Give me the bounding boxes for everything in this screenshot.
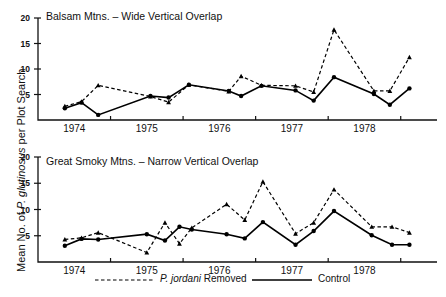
data-point-balsam-control-12 xyxy=(372,92,376,96)
figure-container: Mean No. of P. glutinosus per Plot Searc… xyxy=(0,0,446,297)
x-tick-label-great-smoky-1978: 1978 xyxy=(344,265,384,276)
legend-label-removed-species: P. jordani xyxy=(160,273,201,284)
y-tick-label-balsam-15: 15 xyxy=(16,39,30,49)
data-point-balsam-control-6 xyxy=(227,89,231,93)
data-point-balsam-control-0 xyxy=(63,106,67,110)
x-tick-label-great-smoky-1974: 1974 xyxy=(54,265,94,276)
data-point-great-smoky-control-15 xyxy=(407,242,411,246)
data-point-great-smoky-removed-4 xyxy=(163,220,168,224)
y-axis-label-suffix: per Plot Search xyxy=(15,69,27,148)
data-point-great-smoky-control-6 xyxy=(190,227,194,231)
data-point-great-smoky-control-10 xyxy=(293,242,297,246)
x-tick-label-balsam-1977: 1977 xyxy=(272,123,312,134)
y-tick-label-great-smoky-10: 10 xyxy=(16,205,30,215)
x-tick-label-balsam-1975: 1975 xyxy=(127,123,167,134)
data-point-balsam-control-13 xyxy=(388,103,392,107)
y-tick-label-balsam-5: 5 xyxy=(16,90,30,100)
legend-label-removed-suffix: Removed xyxy=(201,273,247,284)
data-point-balsam-control-14 xyxy=(407,86,411,90)
series-line-great-smoky-removed xyxy=(65,182,410,253)
legend-label-removed: P. jordani Removed xyxy=(160,273,247,284)
y-tick-label-great-smoky-20: 20 xyxy=(16,152,30,162)
x-tick-label-balsam-1976: 1976 xyxy=(199,123,239,134)
data-point-great-smoky-control-7 xyxy=(224,232,228,236)
data-point-balsam-removed-10 xyxy=(311,90,316,94)
data-point-balsam-control-9 xyxy=(293,88,297,92)
axis-lines-great-smoky xyxy=(38,157,437,262)
data-point-great-smoky-removed-2 xyxy=(96,230,101,234)
x-tick-label-balsam-1974: 1974 xyxy=(54,123,94,134)
data-point-great-smoky-control-9 xyxy=(261,220,265,224)
data-point-balsam-control-2 xyxy=(96,113,100,117)
data-point-balsam-control-1 xyxy=(79,100,83,104)
data-point-balsam-control-7 xyxy=(239,94,243,98)
data-point-great-smoky-control-11 xyxy=(311,229,315,233)
data-point-balsam-removed-14 xyxy=(407,55,412,59)
axis-lines-balsam xyxy=(38,18,437,120)
data-point-great-smoky-removed-10 xyxy=(293,231,298,235)
series-line-balsam-control xyxy=(65,77,410,115)
data-point-balsam-control-8 xyxy=(259,84,263,88)
data-point-balsam-control-3 xyxy=(148,94,152,98)
panel-title-balsam: Balsam Mtns. – Wide Vertical Overlap xyxy=(46,10,222,22)
x-tick-label-balsam-1978: 1978 xyxy=(344,123,384,134)
panel-title-great-smoky: Great Smoky Mtns. – Narrow Vertical Over… xyxy=(46,155,258,167)
data-point-great-smoky-control-8 xyxy=(243,236,247,240)
data-point-great-smoky-control-13 xyxy=(370,233,374,237)
data-point-great-smoky-removed-12 xyxy=(332,187,337,191)
data-point-great-smoky-control-1 xyxy=(79,237,83,241)
data-point-balsam-removed-7 xyxy=(239,74,244,78)
data-point-great-smoky-control-2 xyxy=(96,237,100,241)
data-point-balsam-control-5 xyxy=(187,83,191,87)
y-tick-label-balsam-10: 10 xyxy=(16,64,30,74)
data-point-great-smoky-control-4 xyxy=(163,238,167,242)
data-point-great-smoky-control-5 xyxy=(177,225,181,229)
x-tick-label-great-smoky-1977: 1977 xyxy=(272,265,312,276)
legend-label-control: Control xyxy=(318,273,350,284)
data-point-balsam-control-4 xyxy=(166,95,170,99)
data-point-great-smoky-removed-7 xyxy=(224,202,229,206)
data-point-balsam-control-11 xyxy=(332,75,336,79)
data-point-balsam-control-10 xyxy=(311,98,315,102)
data-point-balsam-removed-11 xyxy=(332,27,337,31)
data-point-great-smoky-control-12 xyxy=(332,209,336,213)
data-point-great-smoky-control-14 xyxy=(390,242,394,246)
chart-svg xyxy=(0,0,446,297)
data-point-great-smoky-removed-9 xyxy=(260,179,265,183)
data-point-great-smoky-control-3 xyxy=(145,232,149,236)
y-tick-label-great-smoky-15: 15 xyxy=(16,178,30,188)
data-point-great-smoky-control-0 xyxy=(63,244,67,248)
y-tick-label-great-smoky-5: 5 xyxy=(16,231,30,241)
y-tick-label-balsam-20: 20 xyxy=(16,13,30,23)
